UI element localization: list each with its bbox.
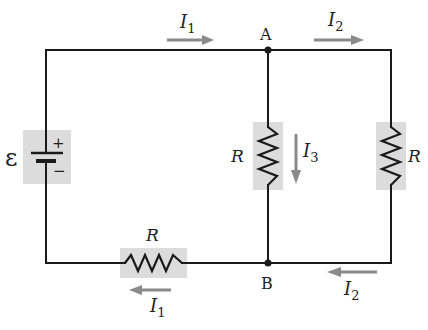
- current-i3-label: I3: [302, 140, 318, 165]
- current-i1-bottom: I1: [129, 285, 171, 320]
- battery-plus-label: +: [52, 134, 65, 152]
- arrowhead-icon: [351, 35, 364, 45]
- current-i1-bottom-label: I1: [149, 295, 165, 320]
- battery-minus-label: −: [53, 162, 66, 180]
- current-i2-bottom: I2: [327, 267, 377, 303]
- node-a-dot: [265, 47, 272, 54]
- current-i3: I3: [291, 134, 318, 184]
- node-b-dot: [265, 260, 272, 267]
- right-resistor-label: R: [407, 146, 421, 166]
- arrowhead-icon: [202, 35, 214, 45]
- middle-resistor-label: R: [230, 146, 244, 166]
- right-resistor-shade: [376, 122, 406, 190]
- node-a-label: A: [259, 25, 272, 44]
- arrowhead-icon: [129, 285, 142, 295]
- bottom-resistor-label: R: [145, 225, 159, 245]
- circuit-wires: [46, 50, 391, 263]
- node-b-label: B: [261, 274, 273, 293]
- arrowhead-icon: [291, 170, 301, 184]
- middle-resistor-shade: [253, 122, 283, 190]
- bottom-resistor-shade: [120, 248, 187, 278]
- emf-label: ε: [5, 144, 17, 172]
- current-i2-top-label: I2: [327, 9, 343, 34]
- arrowhead-icon: [327, 267, 341, 277]
- current-i1-top: I1: [167, 11, 214, 45]
- current-i2-top: I2: [314, 9, 364, 45]
- current-i1-top-label: I1: [179, 11, 195, 36]
- current-i2-bottom-label: I2: [343, 278, 359, 303]
- circuit-diagram: ε + − R R R A B I1 I2 I3: [0, 0, 428, 330]
